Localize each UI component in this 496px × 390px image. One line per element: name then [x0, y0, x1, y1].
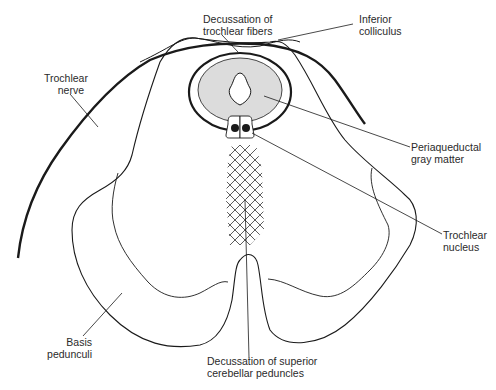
basis-boundary-right [268, 168, 389, 297]
leader-basis-pedunculi [83, 293, 122, 336]
label-inferior-colliculus: Inferior colliculus [359, 14, 402, 37]
trochlear-nucleus-dot-right [242, 124, 250, 132]
leader-trochlear-nerve [70, 94, 98, 127]
trochlear-nucleus-dot-left [231, 124, 239, 132]
label-decussation-scp: Decussation of superior cerebellar pedun… [207, 356, 317, 379]
label-basis-pedunculi: Basis pedunculi [40, 337, 92, 360]
leader-inferior-colliculus [278, 24, 353, 40]
label-periaqueductal-gray-matter: Periaqueductal gray matter [411, 142, 481, 165]
label-decussation-trochlear: Decussation of trochlear fibers [203, 14, 272, 37]
midbrain-diagram [0, 0, 496, 390]
label-trochlear-nerve: Trochlear nerve [44, 73, 84, 96]
leader-periaqueductal [264, 96, 410, 147]
label-trochlear-nucleus: Trochlear nucleus [443, 230, 487, 253]
basis-boundary-left [112, 173, 228, 297]
